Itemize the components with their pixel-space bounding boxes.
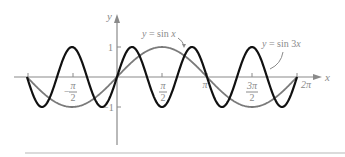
- annotation-sin-x: y = sin x: [141, 28, 186, 48]
- x-tick-label-pi-half: π 2: [159, 80, 167, 103]
- y-tick-label-1: 1: [108, 42, 113, 53]
- svg-text:2: 2: [250, 92, 255, 103]
- svg-text:2: 2: [71, 92, 76, 103]
- svg-text:y = sin x: y = sin x: [141, 28, 176, 39]
- x-tick-label-3pi-half: 3π 2: [246, 80, 258, 103]
- sine-comparison-chart: x y 1 −1 − π 2 π 2 π 3π 2 2π y = sin x: [0, 0, 345, 157]
- annotation-sin-3x: y = sin 3x: [261, 38, 301, 69]
- x-axis-arrow-icon: [313, 74, 322, 80]
- svg-text:y = sin 3x: y = sin 3x: [261, 38, 301, 49]
- x-axis-label: x: [324, 71, 330, 83]
- svg-text:π: π: [70, 80, 76, 91]
- svg-text:3π: 3π: [246, 80, 258, 91]
- callout-line: [270, 52, 283, 69]
- x-tick-label-2pi: 2π: [301, 79, 312, 90]
- svg-text:π: π: [160, 80, 166, 91]
- y-axis-label: y: [106, 10, 112, 22]
- x-tick-label-neg-pi-half: − π 2: [64, 80, 77, 103]
- svg-text:2: 2: [161, 92, 166, 103]
- y-tick-label-neg1: −1: [103, 102, 114, 113]
- y-axis-arrow-icon: [114, 14, 120, 23]
